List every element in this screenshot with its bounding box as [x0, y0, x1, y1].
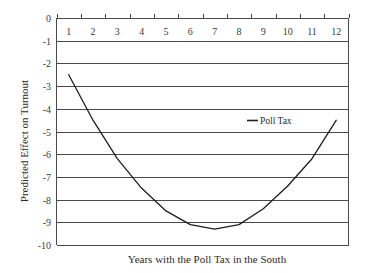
x-tick-label: 6 — [188, 26, 193, 37]
line-chart: 0-1-2-3-4-5-6-7-8-9-10 123456789101112 P… — [0, 0, 365, 273]
x-tick-label: 4 — [139, 26, 144, 37]
y-tick-label: -8 — [43, 195, 51, 206]
y-tick-label: -3 — [43, 81, 51, 92]
x-tick-label: 10 — [283, 26, 293, 37]
x-tick-label: 9 — [261, 26, 266, 37]
legend: Poll Tax — [247, 116, 292, 126]
y-tick-label: -5 — [43, 127, 51, 138]
x-tick-label: 1 — [66, 26, 71, 37]
y-tick-label: -1 — [43, 36, 51, 47]
x-tick-label: 11 — [307, 26, 317, 37]
y-tick-label: 0 — [46, 13, 51, 24]
y-tick-label: -4 — [43, 104, 51, 115]
y-axis-title: Predicted Effect on Turnout — [18, 80, 30, 202]
legend-label-poll-tax: Poll Tax — [260, 116, 292, 126]
x-axis-tick-labels: 123456789101112 — [66, 26, 341, 37]
x-tick-label: 2 — [91, 26, 96, 37]
x-tick-label: 7 — [212, 26, 217, 37]
series-line-poll-tax — [69, 75, 337, 229]
x-tick-label: 12 — [331, 26, 341, 37]
x-axis-ticks — [58, 14, 350, 18]
x-tick-label: 5 — [164, 26, 169, 37]
y-tick-label: -9 — [43, 217, 51, 228]
y-tick-label: -6 — [43, 149, 51, 160]
series-lines — [69, 75, 337, 229]
x-axis-title: Years with the Poll Tax in the South — [128, 253, 287, 265]
y-axis-tick-labels: 0-1-2-3-4-5-6-7-8-9-10 — [38, 13, 51, 251]
y-tick-label: -10 — [38, 240, 51, 251]
x-tick-label: 8 — [237, 26, 242, 37]
y-tick-label: -7 — [43, 172, 51, 183]
y-tick-label: -2 — [43, 58, 51, 69]
x-tick-label: 3 — [115, 26, 120, 37]
